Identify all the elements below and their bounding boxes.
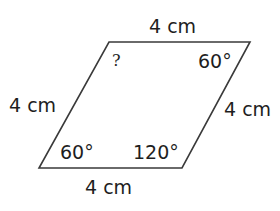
angle-label-bottom-left: 60° <box>60 143 94 162</box>
angle-label-top-left: ? <box>112 53 121 69</box>
angle-label-top-right: 60° <box>198 52 232 71</box>
side-label-left: 4 cm <box>9 96 56 115</box>
side-label-right: 4 cm <box>224 100 271 119</box>
angle-label-bottom-right: 120° <box>133 143 179 162</box>
side-label-top: 4 cm <box>149 17 196 36</box>
side-label-bottom: 4 cm <box>85 178 132 197</box>
rhombus-diagram: 4 cm 4 cm 4 cm 4 cm ? 60° 60° 120° <box>0 0 280 211</box>
